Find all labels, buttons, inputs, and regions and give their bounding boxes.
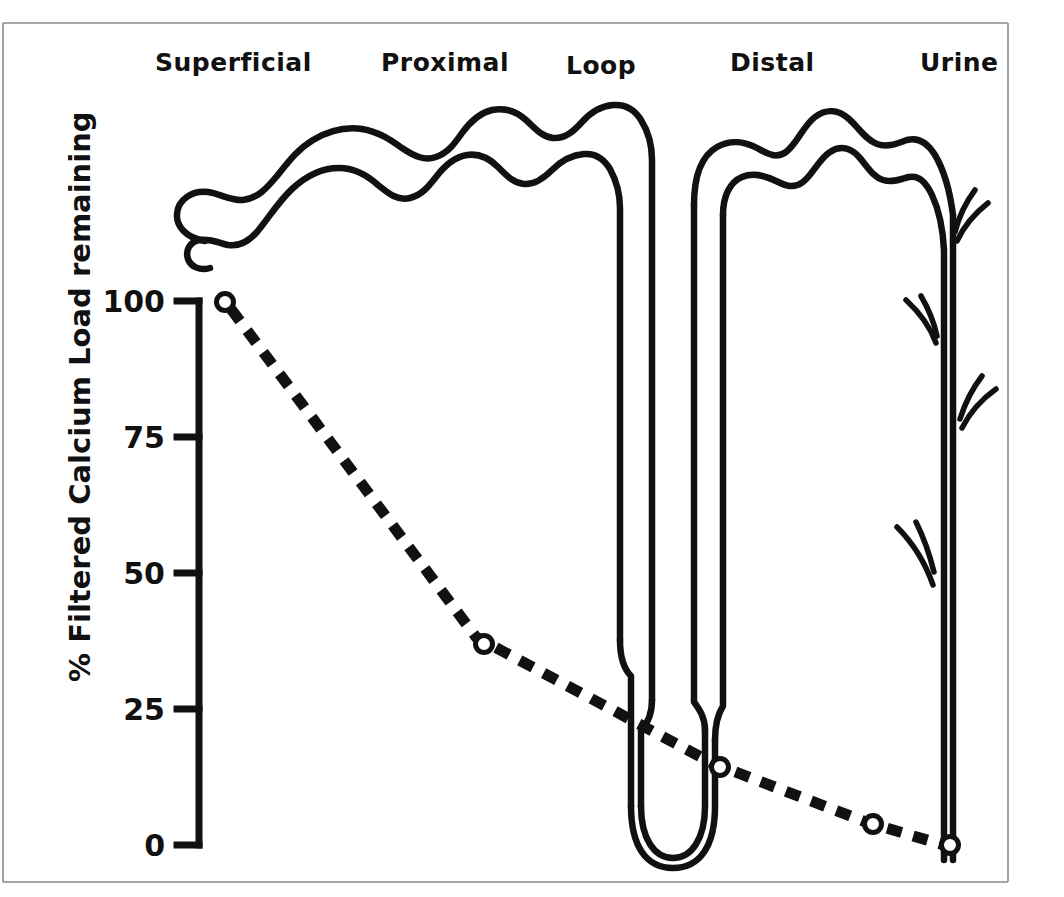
data-point-distal: [865, 816, 882, 833]
y-tick-label-75: 75: [95, 420, 165, 455]
segment-label-urine: Urine: [920, 48, 998, 77]
data-point-markers: [217, 294, 959, 854]
descending-limb-outer: [641, 700, 652, 806]
y-tick-label-25: 25: [95, 692, 165, 727]
data-point-loop: [712, 759, 729, 776]
calcium-load-dashed-line: [231, 309, 944, 845]
proximal-convoluted-tubule-inner-wall: [187, 154, 620, 640]
distal-convoluted-tubule-inner-wall: [723, 148, 944, 860]
calcium-load-series: [217, 294, 959, 854]
y-axis: [177, 301, 199, 845]
y-tick-label-50: 50: [95, 556, 165, 591]
y-tick-label-0: 0: [95, 828, 165, 863]
data-point-proximal: [476, 636, 493, 653]
nephron-schematic: [177, 105, 996, 868]
segment-label-distal: Distal: [730, 48, 815, 77]
segment-label-loop: Loop: [566, 51, 636, 80]
data-point-superficial: [217, 294, 234, 311]
segment-label-superficial: Superficial: [155, 48, 312, 77]
y-tick-label-100: 100: [95, 284, 165, 319]
distal-convoluted-tubule-outer-wall: [694, 111, 953, 860]
data-point-urine: [942, 837, 959, 854]
segment-label-proximal: Proximal: [381, 48, 509, 77]
ascending-limb-outer: [715, 215, 723, 740]
y-axis-title: % Filtered Calcium Load remaining: [63, 122, 97, 682]
ascending-limb-inner: [694, 205, 705, 730]
figure-canvas: Superficial Proximal Loop Distal Urine 1…: [0, 0, 1064, 897]
